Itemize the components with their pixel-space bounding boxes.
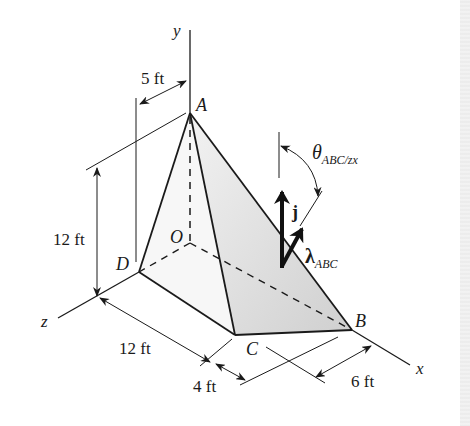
x-axis-label: x — [416, 360, 424, 377]
theta-symbol: θ — [312, 141, 322, 163]
theta-label: θABC/zx — [312, 142, 358, 162]
dim-12ft-height-label: 12 ft — [53, 231, 85, 248]
y-axis-label: y — [173, 22, 181, 39]
dim-4ft-label: 4 ft — [193, 378, 216, 395]
dim-5ft-label: 5 ft — [141, 70, 164, 87]
dim-12ft-z-label: 12 ft — [119, 340, 151, 357]
j-vector-label: j — [292, 203, 298, 221]
dim-6ft-label: 6 ft — [351, 373, 374, 390]
page-edge-strip — [460, 0, 470, 426]
diagram-drawing — [0, 0, 470, 426]
lambda-extension — [300, 191, 322, 226]
theta-subscript: ABC/zx — [322, 153, 358, 167]
z-axis — [58, 272, 139, 318]
point-C-label: C — [246, 340, 258, 358]
ext-C-1 — [200, 339, 232, 366]
point-A-label: A — [196, 96, 207, 114]
lambda-ABC-label: λABC — [305, 246, 338, 266]
x-axis — [352, 330, 410, 365]
point-B-label: B — [355, 312, 366, 330]
lambda-subscript: ABC — [315, 257, 338, 271]
lambda-symbol: λ — [305, 245, 315, 267]
tetrahedron-diagram: y z x A B C D O 5 ft 12 ft 12 ft 4 ft 6 … — [0, 0, 470, 426]
point-D-label: D — [116, 255, 129, 273]
dim-4ft — [216, 364, 245, 380]
point-O-label: O — [170, 228, 183, 246]
ext-C-2 — [266, 347, 325, 383]
z-axis-label: z — [41, 313, 48, 330]
